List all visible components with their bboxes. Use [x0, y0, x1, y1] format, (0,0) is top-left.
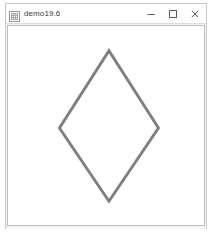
screen: demo19.6: [0, 0, 212, 233]
maximize-button[interactable]: [162, 4, 184, 23]
canvas-container: [6, 24, 206, 229]
drawing-canvas[interactable]: [7, 25, 205, 226]
title-bar[interactable]: demo19.6: [6, 4, 206, 24]
close-icon: [190, 9, 200, 19]
window-controls: [140, 4, 206, 23]
window-title: demo19.6: [24, 8, 140, 19]
app-icon: [9, 8, 20, 19]
application-window: demo19.6: [5, 3, 207, 229]
close-button[interactable]: [184, 4, 206, 23]
minimize-icon: [146, 9, 156, 19]
maximize-icon: [168, 9, 178, 19]
minimize-button[interactable]: [140, 4, 162, 23]
rhombus-shape: [59, 51, 158, 201]
